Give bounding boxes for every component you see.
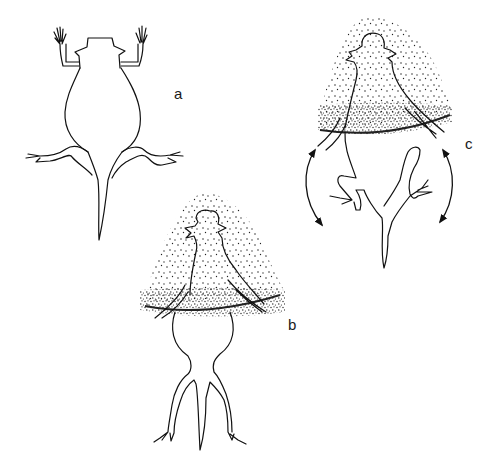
sand-dense-band <box>0 0 493 467</box>
panel-label-a: a <box>174 86 182 101</box>
panel-label-c: c <box>465 136 473 151</box>
lizard-burial-figure <box>0 0 493 467</box>
panel-label-b: b <box>288 317 296 332</box>
panel-c <box>0 0 493 467</box>
